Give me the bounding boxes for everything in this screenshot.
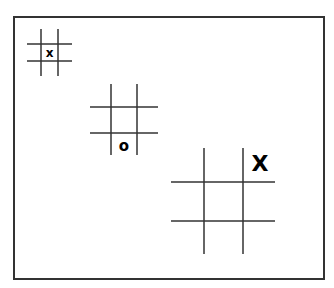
mark-x-small: x [46,46,54,60]
mark-x-large: X [252,151,269,176]
boards-canvas: x o X [0,0,334,288]
mark-o-medium: o [119,137,129,155]
